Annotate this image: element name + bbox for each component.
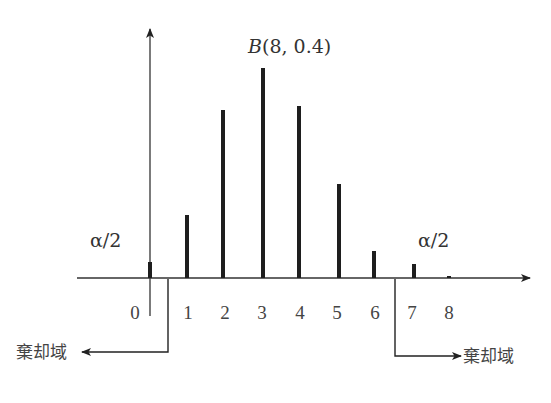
x-tick-labels: 012345678 [130, 302, 454, 323]
binomial-distribution-figure: 012345678 B(8, 0.4) α/2 α/2 棄却域 棄却域 [0, 0, 551, 403]
distribution-label-prefix: B [247, 35, 262, 57]
left-rejection-boundary-line [82, 279, 168, 352]
right-rejection-label: 棄却域 [463, 346, 514, 366]
distribution-label: B(8, 0.4) [247, 35, 331, 57]
x-tick-label-3: 3 [257, 302, 267, 323]
x-tick-label-7: 7 [407, 302, 417, 323]
bar-3 [261, 68, 265, 278]
bar-0 [148, 262, 152, 278]
bar-4 [297, 106, 301, 278]
left-rejection-indicator: 棄却域 [16, 279, 168, 362]
x-tick-label-5: 5 [332, 302, 342, 323]
axes [77, 29, 530, 316]
x-tick-label-1: 1 [183, 302, 193, 323]
x-tick-label-2: 2 [220, 302, 230, 323]
bar-6 [372, 251, 376, 278]
bar-1 [185, 215, 189, 278]
x-tick-label-0: 0 [130, 302, 140, 323]
probability-bars [148, 68, 451, 278]
left-rejection-label: 棄却域 [16, 342, 67, 362]
left-alpha-label: α/2 [90, 229, 121, 251]
bar-7 [412, 264, 416, 278]
x-tick-label-6: 6 [370, 302, 380, 323]
bar-5 [337, 184, 341, 278]
right-alpha-label: α/2 [418, 229, 449, 251]
bar-2 [221, 110, 225, 278]
bar-8 [447, 276, 451, 278]
x-tick-label-4: 4 [295, 302, 305, 323]
distribution-label-args: (8, 0.4) [262, 35, 331, 57]
x-tick-label-8: 8 [444, 302, 454, 323]
